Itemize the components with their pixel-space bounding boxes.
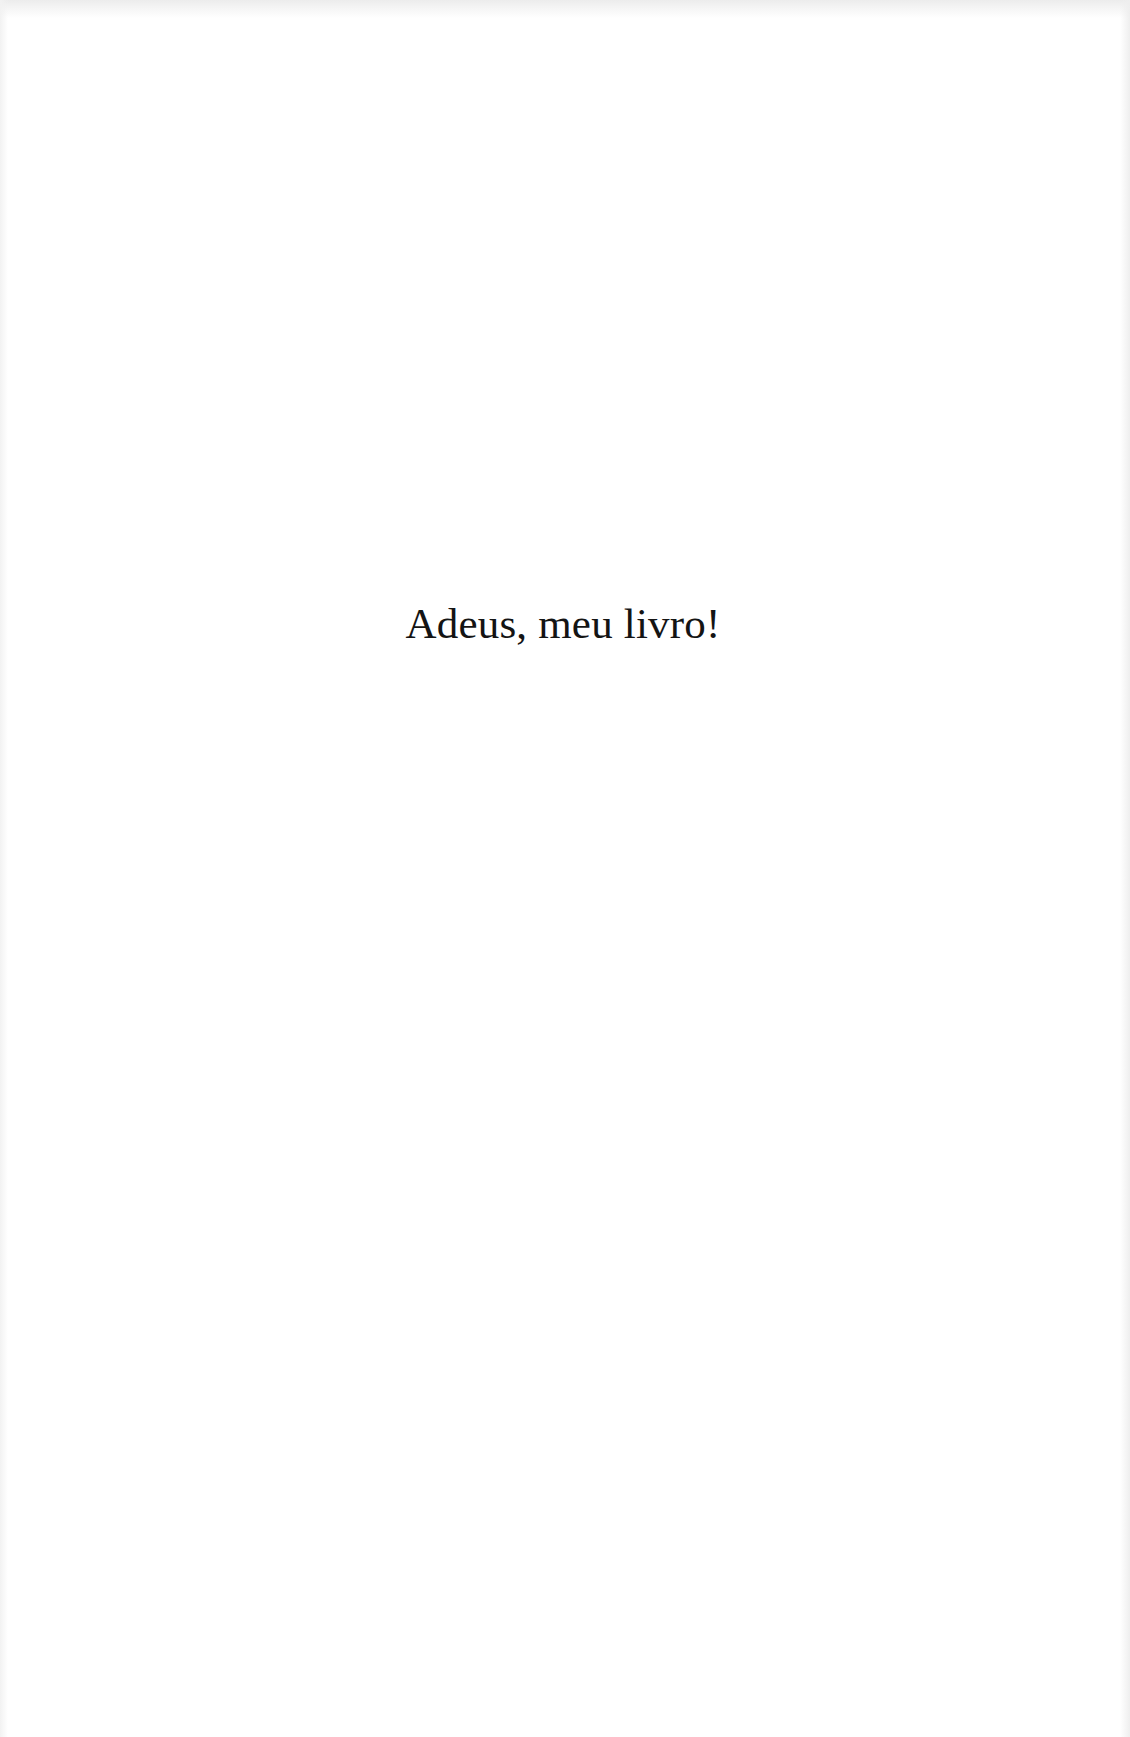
page-text-block: Adeus, meu livro! bbox=[0, 596, 1130, 652]
farewell-line: Adeus, meu livro! bbox=[405, 600, 720, 647]
scan-edge-left bbox=[0, 0, 8, 1737]
scan-edge-top bbox=[0, 0, 1130, 18]
book-page: Adeus, meu livro! bbox=[0, 0, 1130, 1737]
scan-edge-right bbox=[1120, 0, 1130, 1737]
